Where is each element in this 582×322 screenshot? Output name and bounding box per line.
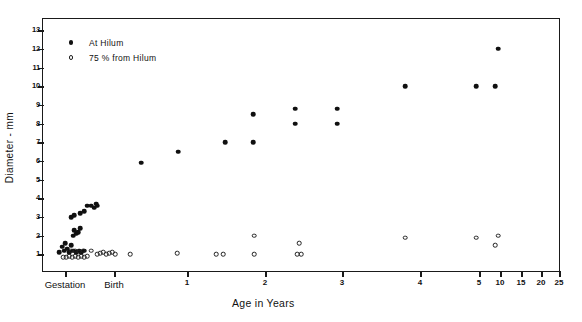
data-point [496, 47, 501, 52]
data-point [85, 254, 90, 259]
y-tick-label: 1 [36, 251, 40, 259]
data-point [128, 252, 133, 257]
data-point [474, 84, 479, 89]
data-point [493, 243, 498, 248]
y-tick-label: 12 [32, 45, 40, 53]
data-point [139, 161, 144, 166]
x-tick-mark [541, 271, 543, 277]
legend: At Hilum75 % from Hilum [63, 35, 156, 65]
data-point [57, 250, 62, 255]
data-point [72, 213, 77, 218]
data-point [223, 140, 228, 145]
legend-item: At Hilum [63, 35, 156, 50]
x-tick-label: 20 [537, 279, 546, 287]
data-point [89, 248, 94, 253]
data-point [496, 233, 501, 238]
x-tick-mark [521, 271, 523, 277]
y-axis-title: Diameter - mm [4, 112, 15, 183]
y-tick-label: 9 [36, 101, 40, 109]
data-point [403, 235, 408, 240]
data-point [113, 252, 118, 257]
y-tick-label: 10 [32, 82, 40, 90]
plot-area: 12345678910111213 GestationBirth12345101… [42, 18, 560, 272]
y-tick-label: 7 [36, 139, 40, 147]
data-point [69, 243, 74, 248]
y-tick-label: 6 [36, 157, 40, 165]
x-tick-label: 3 [340, 279, 344, 287]
y-tick-label: 5 [36, 176, 40, 184]
y-tick-label: 13 [32, 26, 40, 34]
legend-label: At Hilum [89, 38, 124, 48]
x-tick-mark [265, 271, 267, 277]
data-point [251, 112, 256, 117]
data-point [474, 235, 479, 240]
data-point [214, 252, 219, 257]
x-tick-label: 5 [477, 279, 481, 287]
x-tick-label: 15 [517, 279, 526, 287]
data-point [95, 203, 100, 208]
x-tick-label: Gestation [45, 280, 86, 290]
legend-item: 75 % from Hilum [63, 50, 156, 65]
data-point [252, 233, 257, 238]
data-point [299, 252, 304, 257]
x-tick-mark [65, 271, 67, 277]
x-tick-mark [187, 271, 189, 277]
x-tick-label: 4 [418, 279, 422, 287]
data-point [293, 106, 298, 111]
legend-label: 75 % from Hilum [89, 53, 156, 63]
data-point [335, 121, 340, 126]
data-point [403, 84, 408, 89]
y-tick-label: 8 [36, 120, 40, 128]
x-tick-mark [500, 271, 502, 277]
open-circle-icon [63, 55, 79, 60]
data-point [82, 209, 87, 214]
data-point [176, 149, 181, 154]
data-point [293, 121, 298, 126]
x-tick-mark [479, 271, 481, 277]
x-tick-label: 2 [263, 279, 267, 287]
y-tick-label: 11 [32, 64, 40, 72]
data-point [493, 84, 498, 89]
x-tick-label: 10 [496, 279, 505, 287]
filled-circle-icon [63, 40, 79, 44]
data-point [252, 252, 257, 257]
x-tick-mark [342, 271, 344, 277]
data-point [335, 106, 340, 111]
y-tick-label: 4 [36, 195, 40, 203]
x-tick-mark [114, 271, 116, 277]
x-tick-mark [420, 271, 422, 277]
data-point [251, 140, 256, 145]
data-point [221, 252, 226, 257]
y-tick-label: 2 [36, 232, 40, 240]
data-point [297, 241, 302, 246]
x-tick-label: 25 [555, 279, 564, 287]
data-point [175, 251, 180, 256]
y-tick-label: 3 [36, 213, 40, 221]
data-point [72, 228, 77, 233]
x-axis-title: Age in Years [232, 297, 295, 309]
x-tick-mark [559, 271, 561, 277]
scatter-plot-figure: Diameter - mm Age in Years 1234567891011… [0, 0, 582, 322]
data-point [81, 248, 86, 253]
x-tick-label: 1 [185, 279, 189, 287]
data-point [63, 241, 68, 246]
x-tick-label: Birth [104, 280, 124, 290]
data-point [78, 226, 83, 231]
